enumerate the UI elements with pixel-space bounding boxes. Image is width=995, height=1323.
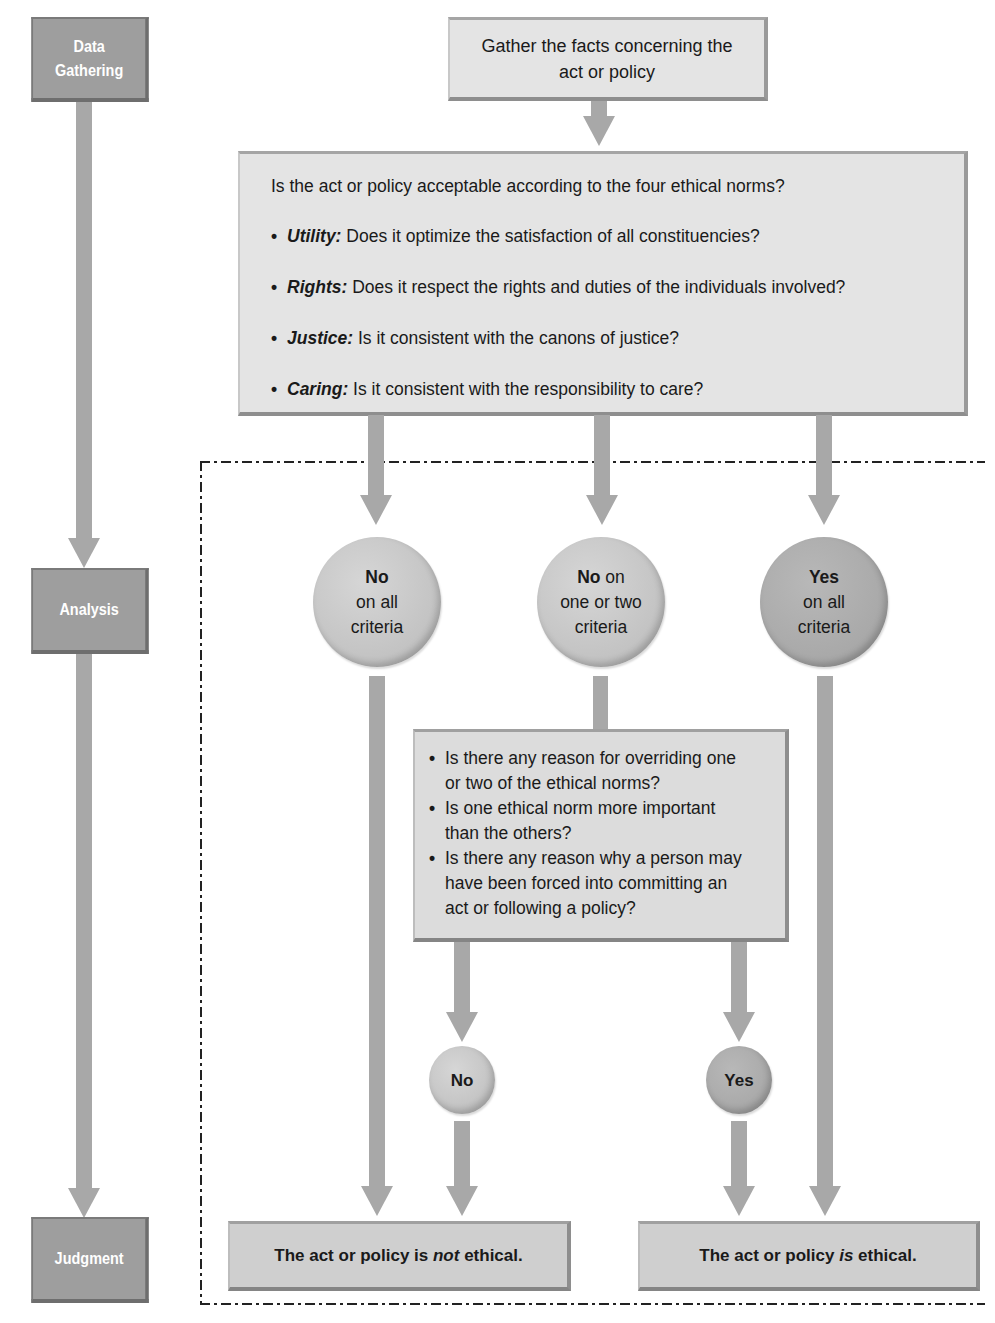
gather-facts-box: Gather the facts concerning the act or p…	[448, 17, 768, 101]
stage-data-gathering-label-1: Data	[73, 35, 104, 59]
override-item-1-line1: Is there any reason for overriding one	[445, 746, 785, 771]
bullet-icon: •	[429, 846, 435, 871]
override-item-3-line3: act or following a policy?	[445, 896, 785, 921]
stage-analysis-label: Analysis	[59, 598, 118, 622]
override-outcome-yes: Yes	[706, 1046, 772, 1114]
override-item-3-line2: have been forced into committing an	[445, 871, 785, 896]
result-is-ethical-suffix: ethical.	[853, 1246, 916, 1265]
outcome-yes-all-line3: criteria	[798, 615, 851, 640]
arrow-head-override-no	[446, 1012, 478, 1042]
stage-data-gathering-label-2: Gathering	[55, 59, 123, 83]
arrow-shaft-override-yes	[731, 942, 747, 1014]
stage-judgment-label: Judgment	[55, 1247, 124, 1271]
norm-utility-name: Utility:	[287, 226, 341, 246]
override-questions-box: • Is there any reason for overriding one…	[413, 729, 789, 942]
outcome-no-on-one-or-two: No on one or two criteria	[537, 537, 665, 667]
result-is-ethical-text: The act or policy is ethical.	[699, 1246, 916, 1266]
bullet-icon: •	[429, 746, 435, 771]
gather-facts-line-1: Gather the facts concerning the	[450, 33, 764, 59]
outcome-no-all-line3: criteria	[351, 615, 404, 640]
region-border-bottom	[200, 1303, 985, 1305]
arrow-head-gather	[583, 116, 615, 146]
override-item-2: • Is one ethical norm more important tha…	[427, 796, 785, 846]
stage-data-gathering: Data Gathering	[31, 17, 148, 102]
norm-rights-name: Rights:	[287, 277, 347, 297]
result-not-ethical-prefix: The act or policy is	[274, 1246, 433, 1265]
norm-justice-name: Justice:	[287, 328, 353, 348]
stage-arrow-head-1	[68, 538, 100, 568]
outcome-no-some-line3: criteria	[575, 615, 628, 640]
override-outcome-no: No	[429, 1046, 495, 1114]
override-item-3: • Is there any reason why a person may h…	[427, 846, 785, 921]
arrow-head-no-to-result	[446, 1186, 478, 1216]
override-item-1-line2: or two of the ethical norms?	[445, 771, 785, 796]
arrow-shaft-yes-all	[816, 415, 832, 497]
norm-justice: •Justice: Is it consistent with the cano…	[271, 326, 964, 350]
bullet-icon: •	[271, 377, 287, 401]
result-not-ethical: The act or policy is not ethical.	[228, 1221, 571, 1291]
norm-justice-text: Is it consistent with the canons of just…	[353, 328, 679, 348]
override-item-1: • Is there any reason for overriding one…	[427, 746, 785, 796]
override-outcome-yes-label: Yes	[724, 1068, 753, 1093]
arrow-head-no-all	[360, 495, 392, 525]
bullet-icon: •	[271, 275, 287, 299]
outcome-no-on-all-criteria: No on all criteria	[313, 537, 441, 667]
arrow-head-yes-to-result	[723, 1186, 755, 1216]
override-item-2-line1: Is one ethical norm more important	[445, 796, 785, 821]
connector-no-some-to-override	[593, 676, 608, 731]
arrow-shaft-yes-all-to-result	[817, 676, 833, 1188]
result-not-ethical-text: The act or policy is not ethical.	[274, 1246, 522, 1266]
stage-judgment: Judgment	[31, 1217, 148, 1303]
result-is-ethical-prefix: The act or policy	[699, 1246, 839, 1265]
arrow-head-yes-all-to-result	[809, 1186, 841, 1216]
outcome-no-some-line2: one or two	[560, 590, 642, 615]
arrow-head-no-all-to-result	[361, 1186, 393, 1216]
outcome-yes-all-line2: on all	[803, 590, 845, 615]
arrow-shaft-override-no	[454, 942, 470, 1014]
arrow-shaft-no-all	[368, 415, 384, 497]
ethical-norms-box: Is the act or policy acceptable accordin…	[238, 151, 968, 416]
norm-utility: •Utility: Does it optimize the satisfact…	[271, 224, 964, 248]
result-is-ethical: The act or policy is ethical.	[638, 1221, 980, 1291]
norm-rights: •Rights: Does it respect the rights and …	[271, 275, 964, 299]
outcome-yes-all-bold: Yes	[809, 565, 839, 590]
outcome-yes-on-all-criteria: Yes on all criteria	[760, 537, 888, 667]
norm-rights-text: Does it respect the rights and duties of…	[347, 277, 845, 297]
arrow-shaft-no-to-result	[454, 1121, 470, 1188]
norms-question: Is the act or policy acceptable accordin…	[271, 174, 964, 198]
override-outcome-no-label: No	[451, 1068, 474, 1093]
result-not-ethical-emph: not	[433, 1246, 459, 1265]
bullet-icon: •	[271, 326, 287, 350]
norm-caring-text: Is it consistent with the responsibility…	[348, 379, 703, 399]
outcome-no-some-bold: No	[577, 567, 600, 587]
outcome-no-some-suffix: on	[601, 567, 625, 587]
stage-arrow-shaft-2	[76, 652, 92, 1190]
outcome-no-some-line1: No on	[577, 565, 625, 590]
stage-arrow-shaft-1	[76, 100, 92, 540]
arrow-shaft-no-all-to-result	[369, 676, 385, 1188]
override-item-2-line2: than the others?	[445, 821, 785, 846]
outcome-no-all-bold: No	[365, 565, 388, 590]
gather-facts-line-2: act or policy	[450, 59, 764, 85]
arrow-head-no-some	[586, 495, 618, 525]
arrow-shaft-yes-to-result	[731, 1121, 747, 1188]
bullet-icon: •	[271, 224, 287, 248]
override-list: • Is there any reason for overriding one…	[427, 746, 785, 921]
override-item-3-line1: Is there any reason why a person may	[445, 846, 785, 871]
arrow-shaft-no-some	[594, 415, 610, 497]
bullet-icon: •	[429, 796, 435, 821]
region-border-top	[200, 461, 985, 463]
norm-caring: •Caring: Is it consistent with the respo…	[271, 377, 964, 401]
arrow-shaft-gather	[591, 101, 607, 117]
arrow-head-yes-all	[808, 495, 840, 525]
arrow-head-override-yes	[723, 1012, 755, 1042]
outcome-no-all-line2: on all	[356, 590, 398, 615]
norm-utility-text: Does it optimize the satisfaction of all…	[341, 226, 759, 246]
norm-caring-name: Caring:	[287, 379, 348, 399]
result-is-ethical-emph: is	[839, 1246, 853, 1265]
stage-analysis: Analysis	[31, 568, 148, 654]
result-not-ethical-suffix: ethical.	[459, 1246, 522, 1265]
stage-arrow-head-2	[68, 1188, 100, 1218]
region-border-left	[200, 461, 202, 1304]
